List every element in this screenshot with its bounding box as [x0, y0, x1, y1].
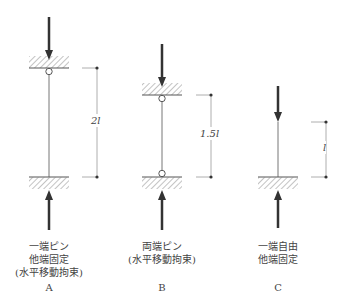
arrow-head-icon — [274, 112, 282, 122]
column-a — [29, 17, 99, 230]
top-fixed-support-b — [142, 83, 182, 95]
arrow-head-icon — [158, 190, 166, 200]
caption-b: 両端ピン (水平移動拘束) — [127, 240, 197, 266]
caption-c: 一端自由 他端固定 — [243, 240, 313, 266]
pin-icon — [46, 68, 52, 74]
bottom-fixed-support-a — [29, 177, 69, 189]
pin-icon — [159, 170, 165, 176]
length-label-c: l — [323, 141, 326, 154]
bottom-fixed-support-c — [258, 177, 298, 189]
length-label-a: 2l — [91, 114, 101, 127]
label-b: B — [153, 282, 171, 293]
bottom-fixed-support-b — [142, 177, 182, 189]
label-c: C — [269, 282, 287, 293]
arrow-head-icon — [45, 190, 53, 200]
column-c — [258, 86, 328, 228]
top-fixed-support-a — [29, 56, 69, 68]
length-label-b: 1.5l — [200, 127, 219, 140]
pin-icon — [159, 95, 165, 101]
label-a: A — [40, 282, 58, 293]
caption-a: 一端ピン 他端固定 (水平移動拘束) — [14, 240, 84, 279]
arrow-head-icon — [274, 190, 282, 200]
